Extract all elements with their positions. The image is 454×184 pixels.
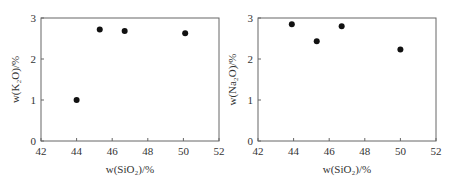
- x-tick-label: 46: [107, 145, 119, 157]
- x-tick-label: 44: [288, 145, 300, 157]
- data-point: [74, 97, 80, 103]
- y-axis-label: w(K₂O)/%: [9, 56, 22, 103]
- data-point: [182, 30, 188, 36]
- y-tick-label: 3: [248, 12, 254, 24]
- y-tick-label: 2: [31, 53, 37, 65]
- x-tick-label: 42: [253, 145, 264, 157]
- left-scatter-plot: 4244464850520123w(SiO₂)/%w(K₂O)/%: [9, 12, 225, 176]
- x-tick-label: 44: [71, 145, 83, 157]
- y-axis-label: w(Na₂O)/%: [226, 53, 239, 105]
- x-tick-label: 42: [36, 145, 47, 157]
- x-axis-label: w(SiO₂)/%: [323, 163, 371, 176]
- x-tick-label: 50: [178, 145, 190, 157]
- plot-frame: [258, 18, 436, 141]
- x-tick-label: 50: [395, 145, 407, 157]
- data-point: [339, 23, 345, 29]
- data-point: [122, 28, 128, 34]
- data-point: [97, 26, 103, 32]
- x-axis-label: w(SiO₂)/%: [106, 163, 154, 176]
- y-tick-label: 1: [248, 94, 254, 106]
- y-tick-label: 0: [248, 135, 254, 147]
- x-tick-label: 52: [214, 145, 225, 157]
- plot-frame: [41, 18, 219, 141]
- x-tick-label: 48: [142, 145, 154, 157]
- y-tick-label: 1: [31, 94, 37, 106]
- data-point: [289, 21, 295, 27]
- x-tick-label: 52: [431, 145, 442, 157]
- x-tick-label: 46: [324, 145, 336, 157]
- right-scatter-plot: 4244464850520123w(SiO₂)/%w(Na₂O)/%: [226, 12, 442, 176]
- y-tick-label: 2: [248, 53, 254, 65]
- data-point: [314, 38, 320, 44]
- data-point: [397, 47, 403, 53]
- y-tick-label: 0: [31, 135, 37, 147]
- chart-figure: 4244464850520123w(SiO₂)/%w(K₂O)/%4244464…: [0, 0, 454, 184]
- x-tick-label: 48: [359, 145, 371, 157]
- y-tick-label: 3: [31, 12, 37, 24]
